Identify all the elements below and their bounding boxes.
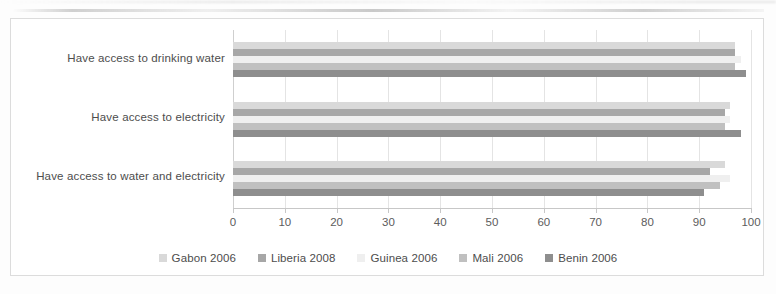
legend-item[interactable]: Liberia 2008: [258, 252, 336, 264]
category-label: Have access to drinking water: [10, 52, 225, 64]
tick-mark: [492, 209, 493, 213]
bar-benin-2006[interactable]: [233, 130, 741, 137]
bar-benin-2006[interactable]: [233, 70, 746, 77]
legend-swatch-icon: [545, 254, 553, 262]
bar-row: [233, 49, 751, 56]
legend-swatch-icon: [258, 254, 266, 262]
tick-label: 80: [627, 216, 667, 228]
gridline: [751, 30, 752, 208]
bar-group: [233, 102, 751, 137]
tick-mark: [544, 209, 545, 213]
bar-row: [233, 116, 751, 123]
tick-label: 10: [265, 216, 305, 228]
tick-label: 40: [420, 216, 460, 228]
bar-row: [233, 161, 751, 168]
bar-row: [233, 70, 751, 77]
bar-group: [233, 161, 751, 196]
bar-guinea-2006[interactable]: [233, 116, 730, 123]
bar-mali-2006[interactable]: [233, 123, 725, 130]
tick-label: 50: [472, 216, 512, 228]
legend-swatch-icon: [459, 254, 467, 262]
tick-mark: [440, 209, 441, 213]
tick-label: 30: [368, 216, 408, 228]
legend-label: Liberia 2008: [271, 252, 336, 264]
legend-item[interactable]: Guinea 2006: [357, 252, 437, 264]
tick-label: 70: [576, 216, 616, 228]
tick-mark: [647, 209, 648, 213]
bar-liberia-2008[interactable]: [233, 109, 725, 116]
legend-swatch-icon: [159, 254, 167, 262]
bar-liberia-2008[interactable]: [233, 168, 710, 175]
tick-mark: [285, 209, 286, 213]
bar-gabon-2006[interactable]: [233, 102, 730, 109]
tick-mark: [699, 209, 700, 213]
tick-label: 20: [317, 216, 357, 228]
bar-row: [233, 109, 751, 116]
bar-row: [233, 175, 751, 182]
bar-row: [233, 130, 751, 137]
legend-label: Guinea 2006: [370, 252, 437, 264]
scan-artifact-top: [0, 1, 776, 3]
bar-benin-2006[interactable]: [233, 189, 704, 196]
tick-mark: [596, 209, 597, 213]
tick-label: 90: [679, 216, 719, 228]
bar-mali-2006[interactable]: [233, 182, 720, 189]
bar-row: [233, 56, 751, 63]
legend-item[interactable]: Gabon 2006: [159, 252, 236, 264]
legend-swatch-icon: [357, 254, 365, 262]
legend-label: Gabon 2006: [172, 252, 236, 264]
legend-item[interactable]: Benin 2006: [545, 252, 617, 264]
legend-label: Mali 2006: [472, 252, 523, 264]
tick-mark: [337, 209, 338, 213]
bar-row: [233, 182, 751, 189]
bar-row: [233, 168, 751, 175]
bar-liberia-2008[interactable]: [233, 49, 735, 56]
tick-mark: [751, 209, 752, 213]
bar-gabon-2006[interactable]: [233, 161, 725, 168]
bar-guinea-2006[interactable]: [233, 56, 741, 63]
legend-item[interactable]: Mali 2006: [459, 252, 523, 264]
bar-row: [233, 63, 751, 70]
bar-group: [233, 42, 751, 77]
bar-guinea-2006[interactable]: [233, 175, 730, 182]
tick-label: 0: [213, 216, 253, 228]
tick-label: 100: [731, 216, 771, 228]
bar-mali-2006[interactable]: [233, 63, 735, 70]
bar-row: [233, 42, 751, 49]
tick-label: 60: [524, 216, 564, 228]
tick-mark: [388, 209, 389, 213]
bar-row: [233, 102, 751, 109]
tick-mark: [233, 209, 234, 213]
category-label: Have access to water and electricity: [10, 170, 225, 182]
chart-legend: Gabon 2006Liberia 2008Guinea 2006Mali 20…: [0, 252, 776, 264]
legend-label: Benin 2006: [558, 252, 617, 264]
category-label: Have access to electricity: [10, 111, 225, 123]
bar-chart-figure: Have access to drinking waterHave access…: [0, 0, 776, 294]
bar-row: [233, 123, 751, 130]
scan-artifact-line: [12, 9, 764, 12]
bar-row: [233, 189, 751, 196]
bar-gabon-2006[interactable]: [233, 42, 735, 49]
plot-area: [233, 30, 751, 208]
